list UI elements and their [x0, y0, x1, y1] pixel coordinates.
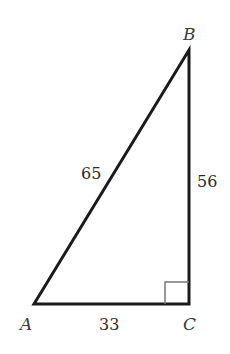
side-label-bc: 56 [197, 172, 217, 191]
triangle-abc [34, 50, 189, 304]
vertex-label-c: C [183, 314, 196, 334]
triangle-diagram: B A C 65 56 33 [0, 0, 230, 354]
side-label-ac: 33 [99, 315, 119, 334]
vertex-label-b: B [182, 24, 196, 44]
vertex-label-a: A [18, 314, 32, 334]
right-angle-marker [165, 282, 189, 304]
side-label-ab: 65 [81, 164, 101, 183]
